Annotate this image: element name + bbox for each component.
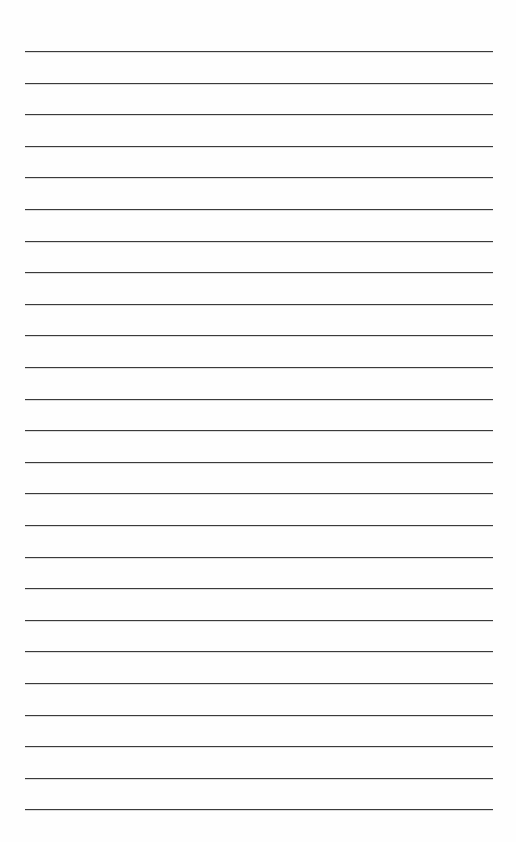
ruled-line (25, 683, 493, 684)
ruled-line (25, 525, 493, 526)
ruled-line (25, 620, 493, 621)
ruled-line (25, 588, 493, 589)
ruled-line (25, 715, 493, 716)
ruled-line (25, 241, 493, 242)
ruled-line (25, 177, 493, 178)
lined-paper-page (0, 0, 516, 842)
ruled-line (25, 146, 493, 147)
ruled-line (25, 272, 493, 273)
ruled-line (25, 462, 493, 463)
ruled-line (25, 557, 493, 558)
ruled-line (25, 367, 493, 368)
ruled-line (25, 304, 493, 305)
ruled-line (25, 778, 493, 779)
ruled-line (25, 746, 493, 747)
ruled-line (25, 651, 493, 652)
ruled-line (25, 83, 493, 84)
ruled-line (25, 114, 493, 115)
ruled-line (25, 493, 493, 494)
ruled-line (25, 51, 493, 52)
ruled-line (25, 335, 493, 336)
ruled-line (25, 209, 493, 210)
ruled-line (25, 809, 493, 810)
ruled-line (25, 399, 493, 400)
ruled-line (25, 430, 493, 431)
